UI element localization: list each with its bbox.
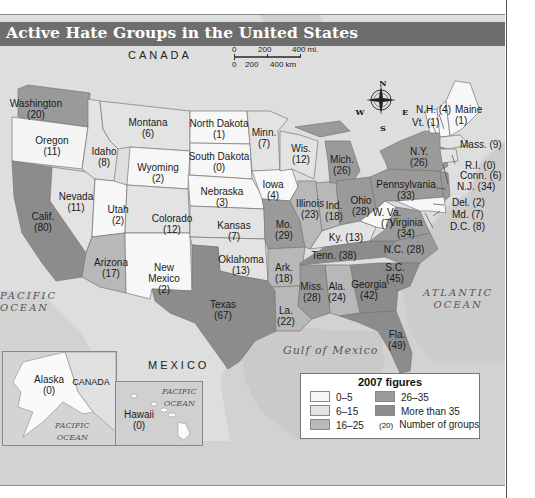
scale-mi-400: 400 mi. <box>292 45 318 54</box>
state-label-line: Iowa <box>262 179 283 190</box>
state-label-line: (80) <box>32 222 55 233</box>
state-label-line: (26) <box>410 157 428 168</box>
state-label-dc: D.C. (8) <box>450 221 485 232</box>
state-label-co: Colorado(12) <box>152 213 193 235</box>
state-label-line: (3) <box>201 197 244 208</box>
legend-label: 0–5 <box>336 392 353 403</box>
state-label-line: (28) <box>300 292 323 303</box>
state-label-ky: Ky. (13) <box>329 232 363 243</box>
state-label-line: (33) <box>376 190 435 201</box>
state-label-la: La.(22) <box>277 305 295 327</box>
state-label-mi: Mich.(26) <box>330 154 354 176</box>
state-label-line: Tenn. (38) <box>311 250 356 261</box>
state-label-line: Nebraska <box>201 186 244 197</box>
label-atlantic-ocean: ATLANTIC OCEAN <box>423 287 493 311</box>
alaska-inset: PACIFIC OCEAN CANADA <box>2 351 117 446</box>
label-mexico: MEXICO <box>148 359 209 371</box>
legend-label: 16–25 <box>336 420 364 431</box>
state-label-line: (45) <box>385 273 404 284</box>
state-label-line: (11) <box>35 146 68 157</box>
state-label-line: Miss. <box>300 281 323 292</box>
state-label-line: (42) <box>351 290 387 301</box>
legend-sample-label: Number of groups <box>399 419 479 430</box>
state-label-id: Idaho(8) <box>91 146 116 168</box>
state-label-line: (7) <box>252 138 276 149</box>
state-label-ar: Ark.(18) <box>275 262 293 284</box>
state-label-ut: Utah(2) <box>107 204 128 226</box>
label-inset-canada: CANADA <box>72 377 110 388</box>
state-label-line: Ala. <box>328 281 346 292</box>
state-label-mn: Minn.(7) <box>252 127 276 149</box>
state-label-line: Alaska <box>34 374 64 385</box>
legend-swatch <box>310 391 330 402</box>
state-label-mo: Mo.(29) <box>275 219 293 241</box>
state-label-nj: N.J. (34) <box>457 181 495 192</box>
label-hi-pacific-line1: PACIFIC <box>162 386 197 398</box>
state-label-tn: Tenn. (38) <box>311 250 356 261</box>
state-label-de: Del. (2) <box>452 197 485 208</box>
state-label-line: Fla. <box>388 329 406 340</box>
state-label-ga: Georgia(42) <box>351 279 387 301</box>
state-label-line: Washington <box>10 98 62 109</box>
legend-item-35-plus: More than 35 <box>375 405 460 417</box>
state-label-line: New <box>148 262 180 273</box>
legend-label: 26–35 <box>401 392 429 403</box>
legend-item-26-35: 26–35 <box>375 391 429 403</box>
state-label-nm: NewMexico(2) <box>148 262 180 295</box>
label-pacific-line1: PACIFIC <box>0 290 57 302</box>
state-label-il: Illinois(23) <box>296 198 324 220</box>
state-label-line: (0) <box>124 420 154 431</box>
scale-km-0: 0 <box>232 60 236 69</box>
legend-swatch <box>310 419 330 430</box>
label-canada: CANADA <box>128 49 192 61</box>
legend-item-0-5: 0–5 <box>310 391 353 403</box>
state-label-ok: Oklahoma(13) <box>218 254 264 276</box>
state-label-sc: S.C.(45) <box>385 262 404 284</box>
scale-km-200: 200 <box>245 60 258 69</box>
state-label-line: (20) <box>10 109 62 120</box>
state-label-sd: South Dakota(0) <box>189 151 250 173</box>
state-label-hi: Hawaii(0) <box>124 409 154 431</box>
state-label-line: Mich. <box>330 154 354 165</box>
legend-title: 2007 figures <box>301 376 479 388</box>
state-label-line: (17) <box>94 268 128 279</box>
state-label-nh: N.H. (4) <box>416 104 451 115</box>
state-label-line: (23) <box>296 209 324 220</box>
label-ak-pacific: PACIFIC OCEAN <box>55 420 90 444</box>
state-label-ma: Mass. (9) <box>460 139 502 150</box>
state-label-line: South Dakota <box>189 151 250 162</box>
state-label-wy: Wyoming(2) <box>137 162 179 184</box>
state-label-line: (8) <box>91 157 116 168</box>
state-label-line: Wis. <box>291 143 310 154</box>
state-label-line: Montana <box>129 117 168 128</box>
label-atlantic-line2: OCEAN <box>423 299 493 311</box>
legend-sample-count: (20) <box>379 421 393 430</box>
state-label-line: Nevada <box>59 191 93 202</box>
state-label-line: Ind. <box>325 200 343 211</box>
state-label-line: Oklahoma <box>218 254 264 265</box>
state-label-line: Virginia <box>389 217 422 228</box>
state-label-al: Ala.(24) <box>328 281 346 303</box>
state-label-line: (13) <box>218 265 264 276</box>
state-label-line: (24) <box>328 292 346 303</box>
state-label-line: Ky. (13) <box>329 232 363 243</box>
state-label-nv: Nevada(11) <box>59 191 93 213</box>
state-label-line: (1) <box>190 129 249 140</box>
label-pacific-line2: OCEAN <box>0 302 57 314</box>
state-label-line: Wyoming <box>137 162 179 173</box>
legend-swatch <box>375 405 395 416</box>
state-label-line: Kansas <box>217 220 250 231</box>
state-label-vt: Vt. (1) <box>412 117 439 128</box>
state-label-line: Idaho <box>91 146 116 157</box>
compass-s: S <box>380 123 386 134</box>
state-label-line: Ark. <box>275 262 293 273</box>
scale-km-400: 400 km <box>270 60 296 69</box>
state-label-ne: Nebraska(3) <box>201 186 244 208</box>
state-label-line: (18) <box>275 273 293 284</box>
state-label-line: (0) <box>34 385 64 396</box>
title-bar: Active Hate Groups in the United States <box>0 22 505 46</box>
map-legend: 2007 figures 0–5 6–15 16–25 26–35 More t… <box>300 373 480 439</box>
state-label-tx: Texas(67) <box>210 299 236 321</box>
state-label-ks: Kansas(7) <box>217 220 250 242</box>
state-label-line: (18) <box>325 211 343 222</box>
